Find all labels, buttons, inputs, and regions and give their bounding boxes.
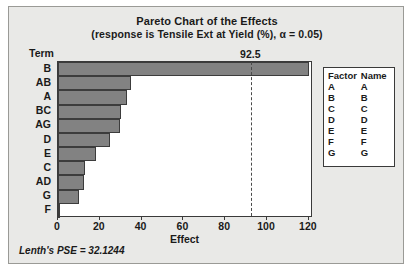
reference-line-label: 92.5 [220, 48, 280, 60]
pareto-chart-figure: Pareto Chart of the Effects (response is… [8, 6, 404, 264]
bar-row [58, 175, 311, 189]
reference-line [251, 62, 252, 216]
bar-row [58, 119, 311, 133]
x-tick-label-100: 100 [257, 220, 275, 232]
chart-subtitle: (response is Tensile Ext at Yield (%), α… [9, 28, 405, 41]
lenths-pse-footnote: Lenth's PSE = 32.1244 [19, 245, 125, 256]
x-axis-title: Effect [57, 233, 312, 245]
legend-factor-c: C [328, 103, 361, 114]
legend-row: DD [328, 114, 390, 125]
y-tick-label-ag: AG [35, 119, 51, 129]
legend-header-name: Name [361, 70, 390, 81]
chart-title: Pareto Chart of the Effects [9, 15, 405, 28]
bar-bc [58, 105, 121, 119]
legend-factor-a: A [328, 81, 361, 92]
legend-name-b: B [361, 92, 390, 103]
bar-d [58, 133, 110, 147]
legend-header-factor: Factor [328, 70, 361, 81]
y-tick-label-c: C [43, 162, 51, 172]
legend-factor-b: B [328, 92, 361, 103]
bar-row [58, 62, 311, 76]
bar-row [58, 105, 311, 119]
x-axis-ticks: 020406080100120 [57, 217, 312, 233]
y-tick-label-ab: AB [36, 77, 51, 87]
y-axis-tick-labels: BABABCAGDECADGF [9, 61, 55, 217]
legend-header-row: Factor Name [328, 70, 390, 81]
legend-row: FF [328, 136, 390, 147]
legend-row: CC [328, 103, 390, 114]
x-tick-label-80: 80 [218, 220, 230, 232]
bar-series [58, 62, 311, 216]
bar-row [58, 204, 311, 218]
legend-name-f: F [361, 136, 390, 147]
factor-name-legend: Factor Name AABBCCDDEEFFGG [323, 67, 395, 167]
legend-name-e: E [361, 125, 390, 136]
legend-factor-f: F [328, 136, 361, 147]
legend-row: BB [328, 92, 390, 103]
bar-ab [58, 76, 131, 90]
bar-g [58, 190, 79, 204]
legend-body: AABBCCDDEEFFGG [328, 81, 390, 158]
plot-area [57, 61, 312, 217]
bar-row [58, 133, 311, 147]
x-tick-label-60: 60 [177, 220, 189, 232]
title-block: Pareto Chart of the Effects (response is… [9, 15, 405, 41]
bar-row [58, 147, 311, 161]
legend-row: EE [328, 125, 390, 136]
y-tick-label-ad: AD [36, 176, 51, 186]
bar-e [58, 147, 96, 161]
x-tick-label-40: 40 [135, 220, 147, 232]
legend-row: AA [328, 81, 390, 92]
bar-row [58, 76, 311, 90]
y-tick-label-bc: BC [36, 105, 51, 115]
legend-row: GG [328, 147, 390, 158]
bar-b [58, 62, 309, 76]
bar-row [58, 90, 311, 104]
y-tick-label-g: G [43, 190, 51, 200]
x-tick-label-120: 120 [299, 220, 317, 232]
bar-ag [58, 119, 120, 133]
x-tick-label-20: 20 [93, 220, 105, 232]
bar-row [58, 190, 311, 204]
legend-name-c: C [361, 103, 390, 114]
y-tick-label-a: A [43, 91, 51, 101]
y-tick-label-f: F [45, 204, 51, 214]
bar-f [58, 204, 60, 218]
legend-factor-e: E [328, 125, 361, 136]
legend-table: Factor Name AABBCCDDEEFFGG [328, 70, 390, 158]
legend-name-d: D [361, 114, 390, 125]
x-tick-label-0: 0 [54, 220, 60, 232]
bar-row [58, 161, 311, 175]
y-tick-label-b: B [43, 63, 51, 73]
bar-ad [58, 175, 84, 189]
legend-name-g: G [361, 147, 390, 158]
legend-factor-d: D [328, 114, 361, 125]
y-tick-label-e: E [44, 148, 51, 158]
y-axis-title: Term [29, 47, 54, 59]
legend-factor-g: G [328, 147, 361, 158]
bar-c [58, 161, 85, 175]
y-tick-label-d: D [43, 134, 51, 144]
legend-name-a: A [361, 81, 390, 92]
bar-a [58, 90, 127, 104]
